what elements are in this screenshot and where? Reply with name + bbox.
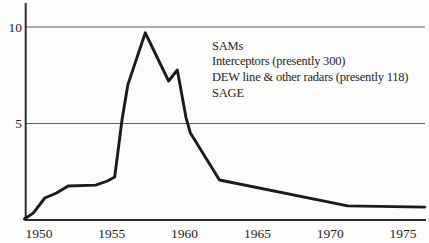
x-tick-label: 1965 (244, 226, 271, 241)
x-tick-label: 1970 (317, 226, 344, 241)
y-tick-label: 10 (9, 20, 23, 35)
axes (25, 3, 426, 221)
annotation-block: SAMsInterceptors (presently 300)DEW line… (212, 39, 408, 100)
annotation-line: SAGE (212, 86, 244, 100)
annotation-line: DEW line & other radars (presently 118) (212, 70, 408, 84)
x-tick-label: 1955 (98, 226, 125, 241)
annotation-line: Interceptors (presently 300) (212, 54, 345, 68)
x-tick-label: 1950 (26, 226, 53, 241)
annotation-line: SAMs (212, 39, 243, 53)
scanned-book-chart-page: 510195019551960196519701975 SAMsIntercep… (0, 0, 429, 243)
x-tick-label: 1975 (390, 226, 417, 241)
y-tick-label: 5 (15, 116, 22, 131)
air-defense-line-chart: 510195019551960196519701975 SAMsIntercep… (0, 0, 429, 243)
x-tick-label: 1960 (171, 226, 198, 241)
